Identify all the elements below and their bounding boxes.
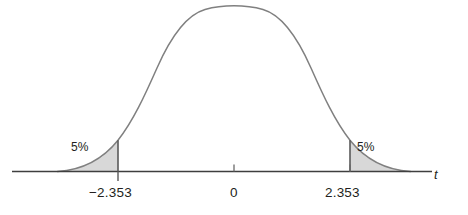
x-axis-label: t [434, 168, 438, 181]
right-tail-percent-label: 5% [357, 141, 374, 153]
tick-label-upper-critical: 2.353 [325, 186, 360, 200]
chart-canvas [0, 0, 468, 215]
tick-label-lower-critical: −2.353 [89, 186, 132, 200]
tick-label-zero: 0 [230, 186, 238, 200]
t-distribution-chart: −2.353 0 2.353 5% 5% t [0, 0, 468, 215]
left-tail-percent-label: 5% [71, 141, 88, 153]
